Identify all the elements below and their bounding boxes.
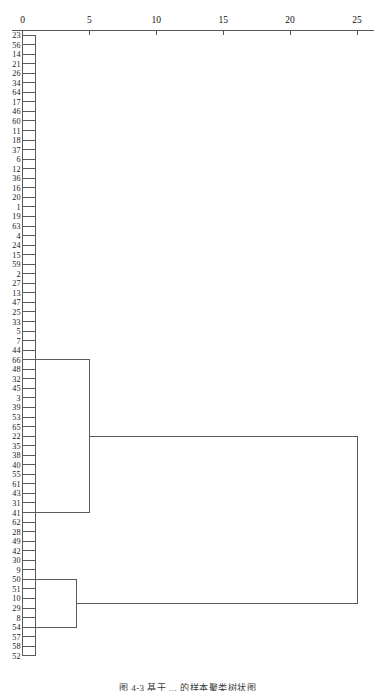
- x-axis-tick-label-20: 20: [285, 15, 295, 25]
- leaf-label: 51: [12, 585, 20, 594]
- leaf-label: 21: [12, 60, 20, 69]
- leaf-label: 40: [12, 461, 20, 470]
- leaf-label: 35: [12, 442, 20, 451]
- leaf-label: 54: [12, 623, 20, 632]
- leaf-label: 8: [16, 614, 20, 623]
- leaf-label: 65: [12, 423, 20, 432]
- x-axis-tick-label-10: 10: [152, 15, 162, 25]
- leaf-label: 7: [16, 337, 20, 346]
- leaf-label: 18: [12, 136, 20, 145]
- leaf-label: 30: [12, 556, 20, 565]
- leaf-label: 4: [16, 232, 20, 241]
- leaf-label: 58: [12, 642, 20, 651]
- x-axis-tick-label-15: 15: [218, 15, 228, 25]
- leaf-label: 1: [16, 203, 20, 212]
- x-axis-tick-label-5: 5: [87, 15, 92, 25]
- x-axis-tick-label-0: 0: [20, 15, 25, 25]
- leaf-label: 45: [12, 384, 20, 393]
- leaf-label: 61: [12, 480, 20, 489]
- leaf-label-axis: 2356142126346417466011183761236162011963…: [12, 31, 20, 661]
- leaf-label: 19: [12, 212, 20, 221]
- leaf-label: 22: [12, 432, 20, 441]
- leaf-label: 39: [12, 403, 20, 412]
- leaf-label: 50: [12, 575, 20, 584]
- leaf-label: 5: [16, 327, 20, 336]
- merge-link-lower-cluster-merge: [36, 579, 76, 627]
- leaf-label: 3: [16, 394, 20, 403]
- leaf-label: 55: [12, 470, 20, 479]
- x-axis-tick-label-25: 25: [352, 15, 362, 25]
- leaf-label: 44: [12, 346, 20, 355]
- leaf-label: 23: [12, 31, 20, 40]
- figure-caption: 图 4-3 基于 ... 的样本聚类树状图: [0, 682, 375, 691]
- leaf-label: 63: [12, 222, 20, 231]
- leaf-label: 15: [12, 251, 20, 260]
- leaf-label: 13: [12, 289, 20, 298]
- leaf-label: 26: [12, 69, 20, 78]
- x-axis: 0510152025: [12, 15, 374, 35]
- merge-link-root-merge: [76, 436, 357, 603]
- leaf-label: 20: [12, 193, 20, 202]
- dendrogram-plot: 0510152025 23561421263464174660111837612…: [0, 0, 375, 691]
- leaf-label: 56: [12, 41, 20, 50]
- leaf-label: 10: [12, 594, 20, 603]
- leaf-label: 28: [12, 528, 20, 537]
- leaf-label: 31: [12, 499, 20, 508]
- leaf-label: 6: [16, 155, 20, 164]
- leaf-label: 9: [16, 566, 20, 575]
- leaf-label: 43: [12, 489, 20, 498]
- leaf-label: 11: [13, 127, 21, 136]
- leaf-label: 33: [12, 318, 20, 327]
- leaf-label: 25: [12, 308, 20, 317]
- leaf-label: 48: [12, 365, 20, 374]
- leaf-label: 41: [12, 509, 20, 518]
- leaf-label: 46: [12, 107, 20, 116]
- leaf-label: 12: [12, 165, 20, 174]
- leaf-label: 62: [12, 518, 20, 527]
- leaf-label: 38: [12, 451, 20, 460]
- leaf-label: 42: [12, 547, 20, 556]
- leaf-label: 37: [12, 146, 20, 155]
- leaf-label: 60: [12, 117, 20, 126]
- leaf-label: 53: [12, 413, 20, 422]
- leaf-label: 66: [12, 356, 20, 365]
- leaf-label: 57: [12, 633, 20, 642]
- leaf-label: 32: [12, 375, 20, 384]
- leaf-label: 24: [12, 241, 20, 250]
- leaf-label: 2: [16, 270, 20, 279]
- leaf-label: 36: [12, 174, 20, 183]
- leaf-label: 34: [12, 79, 20, 88]
- leaf-label: 16: [12, 184, 20, 193]
- leaf-label: 59: [12, 260, 20, 269]
- leaf-label: 14: [12, 50, 20, 59]
- leaf-label: 52: [12, 652, 20, 661]
- leaf-label: 49: [12, 537, 20, 546]
- merge-link-upper-cluster-merge: [36, 360, 90, 513]
- leaf-label: 27: [12, 279, 20, 288]
- leaf-label: 17: [12, 98, 20, 107]
- leaf-label: 29: [12, 604, 20, 613]
- leaf-label: 47: [12, 298, 20, 307]
- dendrogram-figure: 0510152025 23561421263464174660111837612…: [0, 0, 375, 691]
- dendrogram-links: [23, 35, 358, 656]
- leaf-label: 64: [12, 88, 20, 97]
